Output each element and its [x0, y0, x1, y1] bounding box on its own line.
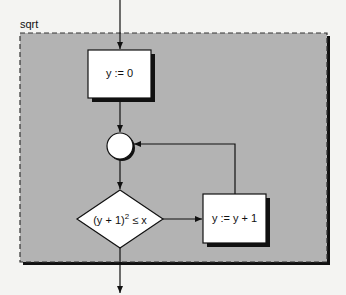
- flowchart-canvas: [0, 0, 346, 295]
- condition-label: (y + 1)2 ≤ x: [77, 212, 163, 226]
- increment-label: y := y + 1: [203, 212, 266, 224]
- condition-rest: ≤ x: [129, 214, 147, 226]
- frame-label: sqrt: [20, 18, 38, 30]
- init-label: y := 0: [88, 67, 151, 79]
- sqrt-frame: [20, 33, 327, 262]
- condition-base: (y + 1): [93, 214, 124, 226]
- junction-circle: [107, 133, 133, 159]
